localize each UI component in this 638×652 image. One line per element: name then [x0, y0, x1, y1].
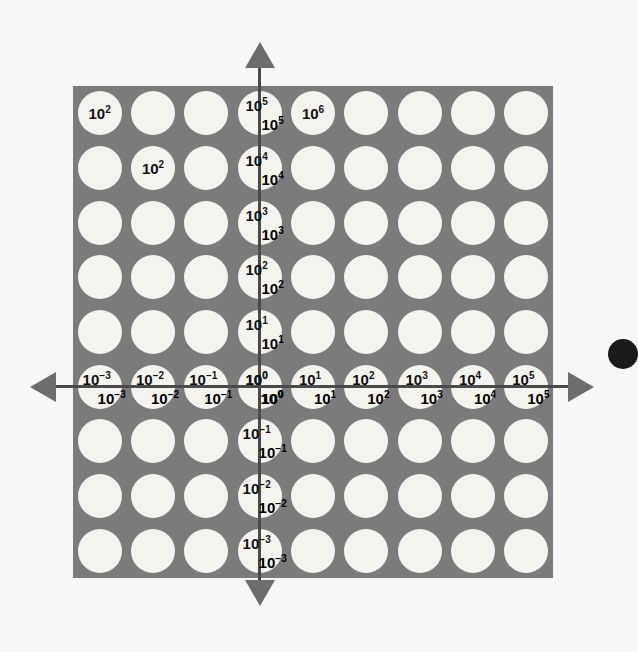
- y-tick-label-shadow: 103: [262, 226, 284, 241]
- grid-circle: [131, 474, 175, 518]
- x-tick-label: 10−1: [189, 371, 217, 386]
- grid-circle: [131, 201, 175, 245]
- y-tick-label-shadow: 105: [262, 117, 284, 132]
- grid-circle: [398, 201, 442, 245]
- grid-circle: [78, 529, 122, 573]
- grid-circle: [504, 146, 548, 190]
- grid-circle: [78, 146, 122, 190]
- x-tick-label: 105: [512, 371, 534, 386]
- x-tick-label-shadow: 102: [367, 390, 389, 405]
- exponent: −2: [168, 388, 179, 399]
- y-tick-label: 103: [246, 207, 268, 222]
- x-tick-label: 101: [299, 371, 321, 386]
- x-tick-label-shadow: 103: [421, 390, 443, 405]
- y-tick-label: 102: [246, 262, 268, 277]
- circle-annotation-label: 106: [302, 106, 324, 121]
- grid-circle: [78, 474, 122, 518]
- y-tick-label: 100: [246, 371, 268, 386]
- grid-circle: [291, 255, 335, 299]
- exponent: 1: [278, 334, 284, 345]
- y-tick-label-shadow: 10−1: [259, 445, 287, 460]
- y-tick-label: 105: [246, 98, 268, 113]
- grid-circle: [131, 91, 175, 135]
- exponent: 2: [278, 279, 284, 290]
- grid-circle: [451, 201, 495, 245]
- grid-circle: [398, 419, 442, 463]
- x-tick-label: 103: [406, 371, 428, 386]
- grid-circle: [344, 529, 388, 573]
- grid-circle: [184, 310, 228, 354]
- grid-circle: [451, 255, 495, 299]
- exponent: 1: [316, 369, 322, 380]
- y-tick-label-shadow: 10−2: [259, 500, 287, 515]
- grid-circle: [78, 419, 122, 463]
- exponent: 0: [278, 388, 284, 399]
- grid-circle: [291, 201, 335, 245]
- grid-circle: [78, 310, 122, 354]
- exponent: 3: [422, 369, 428, 380]
- exponent: 5: [529, 369, 535, 380]
- exponent: −1: [206, 369, 217, 380]
- grid-circle: [398, 255, 442, 299]
- exponent: 2: [159, 159, 165, 170]
- cropped-dark-shape: [608, 339, 638, 369]
- y-tick-label: 10−2: [243, 481, 271, 496]
- x-tick-label-shadow: 10−2: [151, 390, 179, 405]
- y-tick-label-shadow: 102: [262, 281, 284, 296]
- exponent: −2: [153, 369, 164, 380]
- exponent: −2: [275, 498, 286, 509]
- grid-circle: [344, 474, 388, 518]
- grid-circle: [131, 310, 175, 354]
- exponent: −3: [259, 533, 270, 544]
- x-tick-label: 10−3: [83, 371, 111, 386]
- grid-circle: [451, 310, 495, 354]
- exponent: 1: [262, 315, 268, 326]
- grid-circle: [504, 474, 548, 518]
- x-tick-label: 102: [352, 371, 374, 386]
- y-axis-arrow-up: [245, 42, 275, 68]
- exponent: 4: [476, 369, 482, 380]
- grid-circle: [131, 419, 175, 463]
- grid-circle: [398, 474, 442, 518]
- grid-circle: [291, 474, 335, 518]
- exponent: 2: [384, 388, 390, 399]
- grid-circle: [451, 529, 495, 573]
- grid-circle: [131, 255, 175, 299]
- exponent: −2: [259, 479, 270, 490]
- grid-circle: [504, 201, 548, 245]
- grid-circle: [184, 201, 228, 245]
- grid-circle: [184, 146, 228, 190]
- exponent: 1: [331, 388, 337, 399]
- x-tick-label-shadow: 104: [474, 390, 496, 405]
- y-tick-label-shadow: 100: [262, 390, 284, 405]
- exponent: −3: [275, 552, 286, 563]
- grid-circle: [398, 529, 442, 573]
- x-axis-arrow-right: [568, 372, 594, 402]
- grid-circle: [451, 91, 495, 135]
- grid-circle: [291, 310, 335, 354]
- exponent: −3: [99, 369, 110, 380]
- exponent: 0: [262, 369, 268, 380]
- exponent: 4: [262, 151, 268, 162]
- y-tick-label-shadow: 10−3: [259, 554, 287, 569]
- exponent: 3: [278, 224, 284, 235]
- exponent: 3: [437, 388, 443, 399]
- grid-circle: [291, 529, 335, 573]
- grid-circle: [398, 91, 442, 135]
- exponent: −3: [114, 388, 125, 399]
- exponent: 4: [278, 170, 284, 181]
- exponent: 6: [319, 104, 325, 115]
- y-tick-label: 10−3: [243, 535, 271, 550]
- exponent: −1: [275, 443, 286, 454]
- y-tick-label: 104: [246, 153, 268, 168]
- x-tick-label-shadow: 101: [314, 390, 336, 405]
- exponent: −1: [259, 424, 270, 435]
- exponent: 2: [105, 104, 111, 115]
- exponent: 5: [262, 96, 268, 107]
- exponent: 2: [262, 260, 268, 271]
- x-tick-label: 104: [459, 371, 481, 386]
- exponent: −1: [221, 388, 232, 399]
- y-tick-label: 101: [246, 317, 268, 332]
- y-tick-label-shadow: 104: [262, 172, 284, 187]
